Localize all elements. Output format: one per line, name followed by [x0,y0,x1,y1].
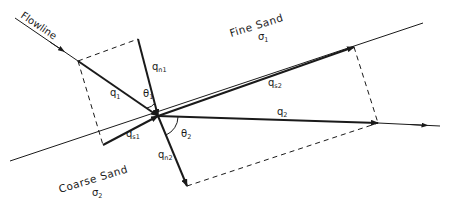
interface-boundary-line [10,23,423,161]
dashed-construction-bottom [187,123,378,186]
dashed-construction-right [354,47,378,123]
flowline-refraction-diagram: Flowline Fine Sand σ1 Coarse Sand σ2 q1 … [0,0,454,207]
qn1-label: qn1 [152,61,167,74]
outgoing-flowline-arrow-icon [410,125,425,126]
dashed-construction-left [78,61,103,145]
q2-label: q2 [277,106,288,119]
sigma1-label: σ1 [258,31,268,44]
qs2-label: qs2 [268,77,282,90]
vector-qs2 [158,47,354,116]
theta2-arc [166,117,178,135]
vector-q2 [158,116,378,123]
flowline-arrow-icon [50,42,62,50]
flowline-label: Flowline [19,10,59,42]
fine-sand-label: Fine Sand [228,11,285,39]
theta1-arc [147,103,155,108]
sigma2-label: σ2 [92,187,102,200]
qn2-label: qn2 [158,149,173,162]
theta2-label: θ2 [181,128,191,141]
outgoing-flowline [378,123,440,126]
dashed-construction-top [78,39,138,61]
